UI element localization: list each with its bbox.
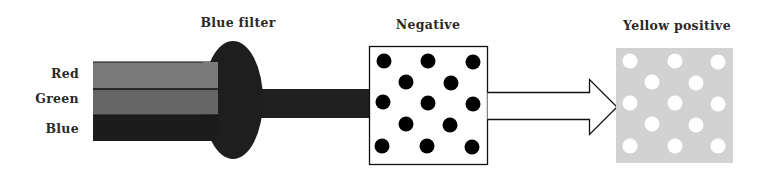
arrow-right-icon <box>488 80 618 135</box>
label-green: Green <box>35 91 79 106</box>
label-blue: Blue <box>45 121 79 136</box>
color-filter-diagram: Red Green Blue Blue filter Negative Yell… <box>0 0 769 171</box>
negative-panel <box>370 47 488 165</box>
blue-band-overlap <box>203 115 218 141</box>
transmitted-beam <box>258 89 370 118</box>
label-blue-filter: Blue filter <box>200 15 275 30</box>
label-negative: Negative <box>396 17 460 32</box>
red-band-overlap <box>203 62 218 89</box>
label-yellow-positive: Yellow positive <box>623 18 731 33</box>
yellow-positive-panel <box>616 48 733 163</box>
green-band <box>93 89 218 115</box>
label-red: Red <box>51 66 79 81</box>
blue-band <box>93 115 218 141</box>
light-bands <box>93 62 218 141</box>
red-band <box>93 62 218 89</box>
green-band-overlap <box>203 89 218 115</box>
